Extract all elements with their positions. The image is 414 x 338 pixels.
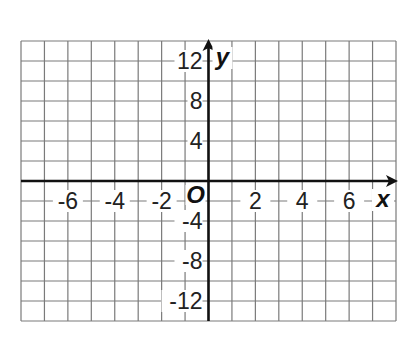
x-tick-label: -6 bbox=[58, 188, 78, 214]
x-tick-label: -2 bbox=[151, 188, 171, 214]
x-axis-label: x bbox=[374, 185, 391, 212]
x-tick-label: 4 bbox=[296, 188, 309, 214]
x-tick-label: 2 bbox=[249, 188, 262, 214]
y-tick-label: 8 bbox=[190, 88, 203, 114]
x-tick-label: -4 bbox=[105, 188, 126, 214]
origin-label: O bbox=[186, 181, 205, 208]
y-axis-label: y bbox=[215, 43, 231, 70]
y-tick-label: 12 bbox=[177, 48, 203, 74]
y-tick-label: -4 bbox=[182, 208, 203, 234]
x-tick-label: 6 bbox=[343, 188, 356, 214]
y-tick-label: -8 bbox=[182, 248, 202, 274]
y-tick-label: 4 bbox=[190, 128, 203, 154]
y-tick-label: -12 bbox=[169, 288, 202, 314]
coordinate-plane: -6-4-22461284-4-8-12O xy bbox=[0, 0, 414, 338]
